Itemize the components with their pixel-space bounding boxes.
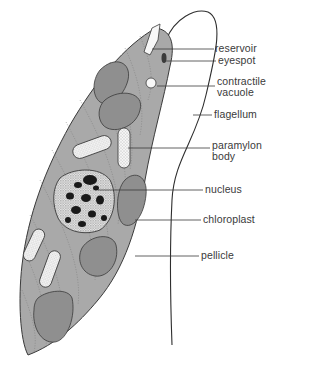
label-text: body	[212, 151, 262, 162]
label-text: nucleus	[205, 184, 242, 195]
label-text: reservoir	[215, 43, 257, 54]
label-reservoir: reservoir	[215, 43, 257, 54]
label-text: flagellum	[214, 109, 257, 120]
eyespot	[162, 53, 167, 63]
contractile-vacuole	[146, 78, 156, 88]
label-nucleus: nucleus	[205, 184, 242, 195]
label-flagellum: flagellum	[214, 109, 257, 120]
label-eyespot: eyespot	[218, 55, 255, 66]
label-text: eyespot	[218, 55, 255, 66]
nucleus	[54, 170, 115, 233]
label-text: chloroplast	[203, 214, 255, 225]
label-contractile-vacuole: contractile vacuole	[217, 76, 266, 98]
label-text: pellicle	[201, 250, 234, 261]
label-text: vacuole	[217, 87, 266, 98]
label-chloroplast: chloroplast	[203, 214, 255, 225]
label-paramylon-body: paramylon body	[212, 140, 262, 162]
label-pellicle: pellicle	[201, 250, 234, 261]
